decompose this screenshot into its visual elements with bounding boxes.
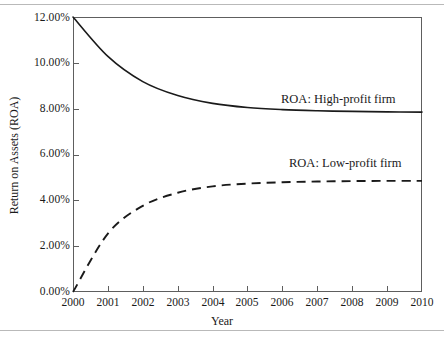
x-tick-label: 2010 [397,296,444,308]
series-annotation-high-profit: ROA: High-profit firm [281,92,396,107]
y-tick-label: 12.00% [8,12,70,24]
roa-line-chart: 12.00% 10.00% 8.00% 6.00% 4.00% 2.00% 0.… [0,0,444,340]
y-axis-title: Return on Assets (ROA) [7,56,22,256]
series-annotation-low-profit: ROA: Low-profit firm [289,156,401,171]
series-line-low-profit [73,181,422,292]
x-axis-title: Year [0,314,444,329]
series-curves [73,17,422,292]
